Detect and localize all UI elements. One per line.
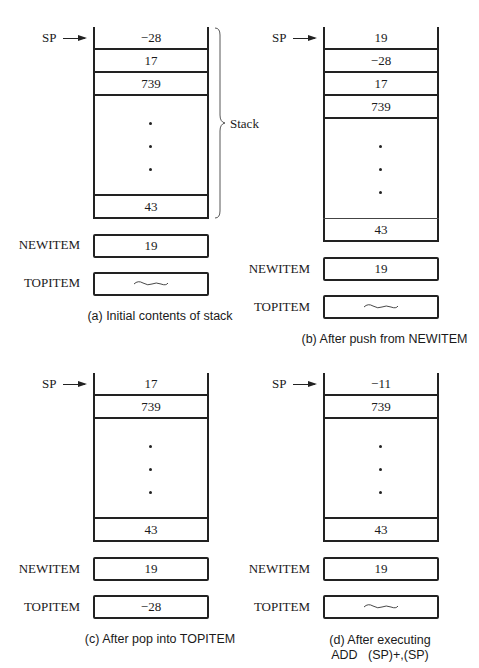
ellipsis-dot <box>379 491 382 494</box>
sp-arrow-icon <box>293 384 315 385</box>
ellipsis-dot <box>379 445 382 448</box>
newitem-box: 19 <box>323 557 439 581</box>
sp-label: SP <box>272 376 286 392</box>
stack-cell-top: −11 <box>323 373 439 396</box>
stack-cell-bottom: 43 <box>323 519 439 542</box>
undefined-value-squiggle-icon <box>363 602 399 612</box>
ellipsis-dot <box>379 468 382 471</box>
stack-cell: 739 <box>323 396 439 419</box>
topitem-box <box>323 595 439 619</box>
panel-d: SP −11 739 43 NEWITEM 19 TOPITEM (d) Aft… <box>0 0 479 668</box>
newitem-label: NEWITEM <box>230 561 310 577</box>
topitem-label: TOPITEM <box>230 599 310 615</box>
caption-d-line1: (d) After executing <box>300 633 460 647</box>
caption-d-line2: ADD (SP)+,(SP) <box>300 648 460 662</box>
